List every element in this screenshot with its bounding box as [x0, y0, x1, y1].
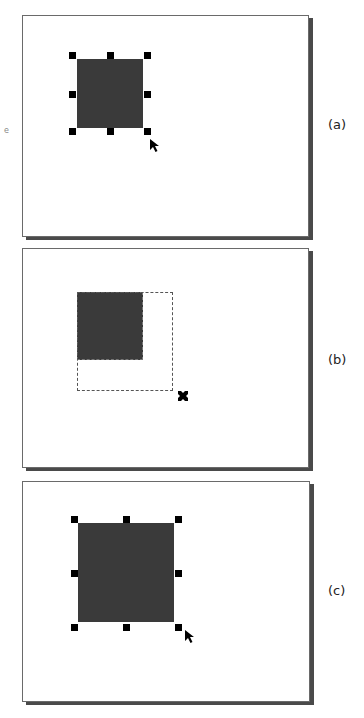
selected-rectangle-a[interactable]	[77, 59, 143, 128]
resize-handle-sw[interactable]	[69, 128, 76, 135]
panel-label-c: (c)	[328, 583, 345, 598]
panel-label-a: (a)	[328, 117, 346, 132]
resize-handle-nw[interactable]	[69, 52, 76, 59]
panel-label-b: (b)	[328, 352, 346, 367]
resize-handle-e[interactable]	[144, 91, 151, 98]
resize-preview-outline	[77, 292, 173, 391]
resize-handle-n[interactable]	[107, 52, 114, 59]
move-cursor-icon	[177, 390, 189, 402]
scan-artifact: e	[4, 126, 9, 135]
resize-handle-ne[interactable]	[175, 516, 182, 523]
resize-handle-w[interactable]	[71, 570, 78, 577]
resized-rectangle-c[interactable]	[78, 523, 174, 622]
arrow-cursor-icon	[149, 138, 161, 154]
resize-handle-se[interactable]	[175, 624, 182, 631]
resize-handle-n[interactable]	[123, 516, 130, 523]
resize-handle-e[interactable]	[175, 570, 182, 577]
resize-handle-s[interactable]	[123, 624, 130, 631]
arrow-cursor-icon	[184, 629, 196, 645]
canvas-frame-a	[22, 15, 309, 237]
resize-handle-s[interactable]	[107, 128, 114, 135]
resize-handle-nw[interactable]	[71, 516, 78, 523]
resize-handle-sw[interactable]	[71, 624, 78, 631]
resize-handle-w[interactable]	[69, 91, 76, 98]
resize-handle-ne[interactable]	[144, 52, 151, 59]
resize-handle-se[interactable]	[144, 128, 151, 135]
